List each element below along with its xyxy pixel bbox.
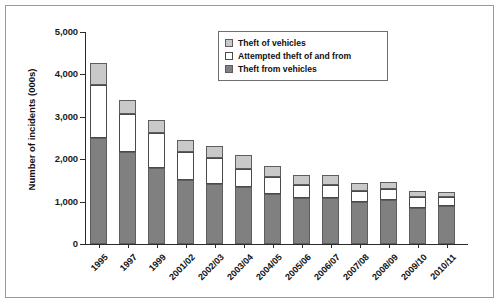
bar-segment[interactable]: [409, 197, 426, 208]
x-axis-line: [85, 244, 468, 245]
chart-plot-area: 01,0002,0003,0004,0005,000 Number of inc…: [6, 6, 502, 305]
bar-segment[interactable]: [293, 175, 310, 185]
x-tick-mark: [360, 244, 361, 248]
bar-segment[interactable]: [264, 194, 281, 244]
bar-segment[interactable]: [148, 133, 165, 168]
chart-frame: 01,0002,0003,0004,0005,000 Number of inc…: [5, 5, 494, 298]
bar-segment[interactable]: [119, 152, 136, 244]
x-tick-mark: [302, 244, 303, 248]
bar-segment[interactable]: [380, 182, 397, 190]
y-tick-mark: [80, 32, 85, 33]
chart-legend: Theft of vehiclesAttempted theft of and …: [218, 31, 388, 81]
bar-segment[interactable]: [90, 138, 107, 244]
bar-segment[interactable]: [177, 140, 194, 153]
bar-segment[interactable]: [119, 100, 136, 114]
x-tick-mark: [331, 244, 332, 248]
bar-segment[interactable]: [206, 184, 223, 244]
legend-item[interactable]: Theft from vehicles: [225, 62, 381, 75]
bar-segment[interactable]: [351, 202, 368, 244]
x-tick-mark: [99, 244, 100, 248]
x-tick-mark: [447, 244, 448, 248]
bar-segment[interactable]: [148, 168, 165, 244]
x-tick-mark: [215, 244, 216, 248]
x-tick-mark: [128, 244, 129, 248]
legend-item[interactable]: Attempted theft of and from: [225, 49, 381, 62]
y-tick-mark: [80, 74, 85, 75]
bar-segment[interactable]: [90, 63, 107, 85]
y-axis-labels: 01,0002,0003,0004,0005,000: [6, 6, 78, 305]
bar-segment[interactable]: [351, 191, 368, 202]
bar-segment[interactable]: [438, 197, 455, 206]
y-tick-label: 2,000: [14, 153, 78, 164]
bar-segment[interactable]: [380, 189, 397, 200]
bar-segment[interactable]: [293, 198, 310, 244]
x-tick-mark: [244, 244, 245, 248]
y-tick-label: 1,000: [14, 196, 78, 207]
bar-segment[interactable]: [293, 185, 310, 199]
bar-segment[interactable]: [235, 187, 252, 244]
y-tick-mark: [80, 117, 85, 118]
bar-segment[interactable]: [148, 120, 165, 133]
bar-segment[interactable]: [409, 208, 426, 244]
x-tick-mark: [157, 244, 158, 248]
bar-segment[interactable]: [438, 206, 455, 244]
bar-segment[interactable]: [264, 177, 281, 194]
y-tick-label: 0: [14, 238, 78, 249]
legend-label: Theft from vehicles: [238, 64, 317, 74]
bar-segment[interactable]: [235, 169, 252, 187]
bar-segment[interactable]: [322, 175, 339, 185]
legend-label: Theft of vehicles: [238, 38, 306, 48]
legend-label: Attempted theft of and from: [238, 51, 351, 61]
x-tick-mark: [389, 244, 390, 248]
bar-segment[interactable]: [119, 114, 136, 151]
y-tick-label: 3,000: [14, 111, 78, 122]
bar-segment[interactable]: [322, 198, 339, 244]
bar-segment[interactable]: [380, 200, 397, 244]
legend-swatch-icon: [225, 65, 233, 73]
bar-segment[interactable]: [177, 152, 194, 180]
x-tick-mark: [273, 244, 274, 248]
y-tick-mark: [80, 244, 85, 245]
x-tick-mark: [186, 244, 187, 248]
bar-segment[interactable]: [177, 180, 194, 244]
y-tick-mark: [80, 159, 85, 160]
bar-segment[interactable]: [438, 192, 455, 198]
y-tick-label: 4,000: [14, 68, 78, 79]
bar-segment[interactable]: [409, 191, 426, 197]
bar-segment[interactable]: [264, 166, 281, 177]
x-tick-mark: [418, 244, 419, 248]
bar-segment[interactable]: [322, 185, 339, 199]
bar-segment[interactable]: [351, 183, 368, 191]
legend-swatch-icon: [225, 52, 233, 60]
bar-segment[interactable]: [206, 146, 223, 158]
legend-swatch-icon: [225, 39, 233, 47]
bar-segment[interactable]: [90, 85, 107, 138]
legend-item[interactable]: Theft of vehicles: [225, 36, 381, 49]
bar-segment[interactable]: [235, 155, 252, 169]
y-tick-mark: [80, 202, 85, 203]
y-tick-label: 5,000: [14, 26, 78, 37]
y-axis-title: Number of incidents (000s): [26, 50, 37, 210]
bar-segment[interactable]: [206, 158, 223, 184]
